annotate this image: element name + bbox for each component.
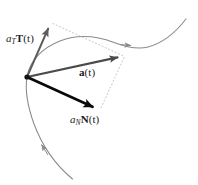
guide-normal-to-resultant xyxy=(101,58,125,110)
normal-acceleration-label: aNN(t) xyxy=(70,114,99,126)
trajectory-curve xyxy=(26,19,186,179)
tangential-argument: (t) xyxy=(23,32,34,44)
total-acceleration-vector xyxy=(27,57,118,77)
tangential-acceleration-label: aTT(t) xyxy=(6,33,34,45)
acceleration-argument: (t) xyxy=(85,66,96,78)
normal-unit-vector: N xyxy=(81,113,89,125)
normal-acceleration-vector xyxy=(27,77,93,107)
total-acceleration-label: a(t) xyxy=(79,67,95,78)
origin-point xyxy=(24,74,29,79)
normal-argument: (t) xyxy=(89,113,100,125)
diagram-canvas xyxy=(0,0,198,185)
acceleration-diagram: aTT(t) a(t) aNN(t) xyxy=(0,0,198,185)
